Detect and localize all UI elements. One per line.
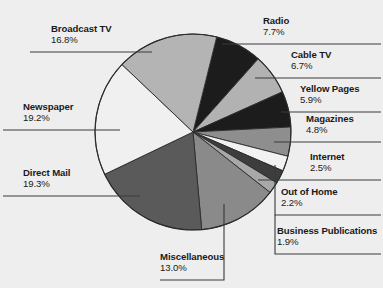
- chart-canvas: Broadcast TV 16.8% Newspaper 19.2% Direc…: [0, 0, 383, 288]
- pie-label-yellow-pages-name: Yellow Pages: [300, 84, 360, 94]
- pie-label-miscellaneous: Miscellaneous 13.0%: [160, 252, 224, 273]
- pie-label-business-publications: Business Publications 1.9%: [277, 226, 377, 247]
- pie-label-out-of-home-name: Out of Home: [281, 187, 337, 197]
- pie-label-cable-tv-name: Cable TV: [291, 50, 331, 60]
- pie-label-radio: Radio 7.7%: [263, 16, 289, 37]
- pie-label-newspaper: Newspaper 19.2%: [23, 102, 73, 123]
- pie-label-direct-mail-value: 19.3%: [23, 179, 70, 189]
- pie-label-direct-mail-name: Direct Mail: [23, 168, 70, 178]
- pie-label-magazines: Magazines 4.8%: [306, 114, 354, 135]
- pie-label-yellow-pages: Yellow Pages 5.9%: [300, 84, 360, 105]
- pie-label-newspaper-value: 19.2%: [23, 113, 73, 123]
- pie-slices: [95, 34, 291, 230]
- pie-label-broadcast-tv-value: 16.8%: [51, 35, 112, 45]
- pie-label-magazines-value: 4.8%: [306, 125, 354, 135]
- pie-label-internet-value: 2.5%: [310, 163, 344, 173]
- pie-label-out-of-home: Out of Home 2.2%: [281, 187, 337, 208]
- pie-label-broadcast-tv: Broadcast TV 16.8%: [51, 24, 112, 45]
- pie-label-business-publications-value: 1.9%: [277, 237, 377, 247]
- pie-label-radio-name: Radio: [263, 16, 289, 26]
- pie-label-out-of-home-value: 2.2%: [281, 198, 337, 208]
- pie-label-cable-tv-value: 6.7%: [291, 61, 331, 71]
- pie-label-yellow-pages-value: 5.9%: [300, 95, 360, 105]
- pie-label-miscellaneous-value: 13.0%: [160, 263, 224, 273]
- pie-label-cable-tv: Cable TV 6.7%: [291, 50, 331, 71]
- pie-label-business-publications-name: Business Publications: [277, 226, 377, 236]
- pie-label-internet-name: Internet: [310, 152, 344, 162]
- pie-label-broadcast-tv-name: Broadcast TV: [51, 24, 112, 34]
- pie-label-radio-value: 7.7%: [263, 27, 289, 37]
- pie-label-newspaper-name: Newspaper: [23, 102, 73, 112]
- pie-label-magazines-name: Magazines: [306, 114, 354, 124]
- pie-label-direct-mail: Direct Mail 19.3%: [23, 168, 70, 189]
- pie-label-miscellaneous-name: Miscellaneous: [160, 252, 224, 262]
- pie-label-internet: Internet 2.5%: [310, 152, 344, 173]
